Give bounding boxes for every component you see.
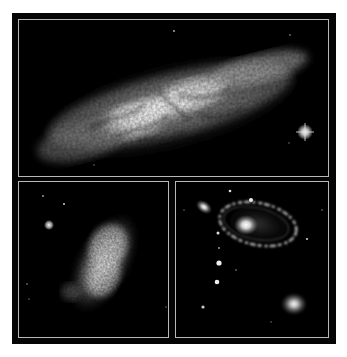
panel-bottom-left-irregular-galaxy: irregular galaxy bbox=[18, 181, 169, 338]
ring-galaxy-image bbox=[176, 182, 329, 338]
elliptical-galaxy bbox=[281, 293, 307, 315]
ring-galaxy bbox=[214, 194, 301, 254]
starburst-galaxy-image bbox=[19, 20, 329, 177]
panel-top-starburst-galaxy: edge-on starburst galaxy with dust lanes bbox=[18, 19, 329, 177]
point-star bbox=[44, 220, 54, 230]
figure-plate: edge-on starburst galaxy with dust lanes bbox=[12, 13, 336, 344]
irregular-galaxy-image bbox=[19, 182, 169, 338]
small-elliptical-galaxy bbox=[193, 197, 215, 217]
panel-bottom-right-ring-galaxy: ring galaxy with companions bbox=[175, 181, 329, 338]
